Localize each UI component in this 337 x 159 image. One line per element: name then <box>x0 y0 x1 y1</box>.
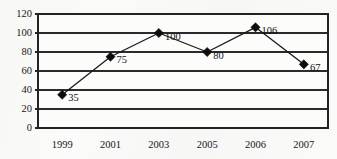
x-axis-tick-label: 2005 <box>187 140 227 151</box>
data-point-value-label: 100 <box>165 32 181 43</box>
x-axis-tick-label: 2006 <box>236 140 276 151</box>
y-axis-tick-label: 100 <box>6 28 32 39</box>
data-point-value-label: 80 <box>213 51 224 62</box>
data-point-value-label: 67 <box>310 63 321 74</box>
x-axis-tick-label: 2003 <box>139 140 179 151</box>
y-axis-tick-label: 20 <box>6 104 32 115</box>
y-axis-tick-label: 60 <box>6 66 32 77</box>
line-chart-figure: 020406080100120 199920012003200520062007… <box>0 0 337 159</box>
y-axis-tick-label: 120 <box>6 9 32 20</box>
x-axis-tick-label: 2007 <box>284 140 324 151</box>
y-axis-tick-label: 40 <box>6 85 32 96</box>
y-axis-tick-label: 0 <box>6 123 32 134</box>
data-point-value-label: 75 <box>117 55 128 66</box>
x-axis-tick-label: 2001 <box>91 140 131 151</box>
x-axis-tick-label: 1999 <box>42 140 82 151</box>
data-point-value-label: 106 <box>262 26 278 37</box>
y-axis-tick-label: 80 <box>6 47 32 58</box>
data-point-value-label: 35 <box>68 93 79 104</box>
plot-area <box>0 0 337 159</box>
